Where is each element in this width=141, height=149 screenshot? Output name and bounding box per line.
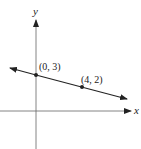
graph-line-left [10, 68, 36, 75]
x-axis-label: x [133, 104, 139, 116]
point-4-2 [80, 85, 84, 89]
point-label-0-3: (0, 3) [39, 61, 61, 73]
coordinate-plane: x y (0, 3) (4, 2) [0, 0, 141, 149]
y-axis-label: y [32, 5, 38, 17]
point-0-3 [34, 73, 38, 77]
point-label-4-2: (4, 2) [81, 74, 103, 86]
